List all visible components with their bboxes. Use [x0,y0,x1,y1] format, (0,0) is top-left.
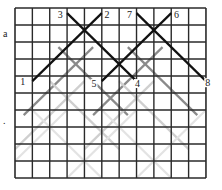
point-label-6: 6 [174,9,179,20]
point-label-7: 7 [127,9,132,20]
grid-lines [15,8,206,178]
gray-diagonal-lines [0,47,206,178]
point-label-4: 4 [135,78,140,89]
gray-diagonal-0 [24,47,93,115]
grid-diagram: 12345678 [0,0,222,190]
point-label-1: 1 [20,76,25,87]
point-label-3: 3 [58,9,63,20]
point-label-8: 8 [205,77,210,88]
gray-diagonal-2 [93,47,162,115]
point-label-5: 5 [91,78,96,89]
point-label-2: 2 [105,9,110,20]
point-labels: 12345678 [19,9,211,89]
